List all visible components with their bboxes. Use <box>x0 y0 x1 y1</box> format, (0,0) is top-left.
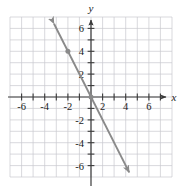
y-tick-label-6: 6 <box>79 23 84 34</box>
marked-point-origin <box>89 95 94 100</box>
x-tick-label--2: -2 <box>64 101 73 112</box>
x-tick-label--6: -6 <box>17 101 26 112</box>
graph-canvas: -6 -4 -2 2 4 6 6 4 2 -2 -4 -6 x y <box>0 0 185 190</box>
marked-point-neg2-4 <box>65 49 70 54</box>
x-tick-label-6: 6 <box>146 101 151 112</box>
y-tick-label--2: -2 <box>75 115 84 126</box>
y-axis-label: y <box>88 2 94 14</box>
x-axis-label: x <box>171 91 177 103</box>
y-tick-label--4: -4 <box>75 138 84 149</box>
y-tick-label--6: -6 <box>75 161 84 172</box>
x-tick-label--4: -4 <box>40 101 49 112</box>
x-tick-label-2: 2 <box>100 101 105 112</box>
coordinate-plane-figure: -6 -4 -2 2 4 6 6 4 2 -2 -4 -6 x y <box>0 0 185 190</box>
x-tick-label-4: 4 <box>123 101 129 112</box>
y-tick-label-4: 4 <box>79 46 85 57</box>
